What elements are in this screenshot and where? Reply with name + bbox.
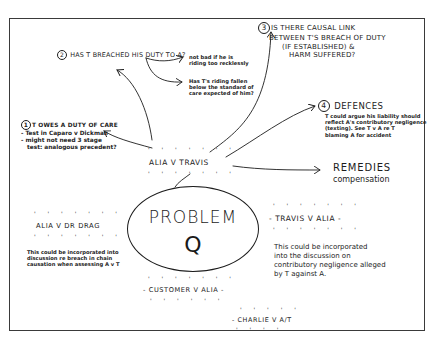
- alia-drdrag-sparkle-bottom: ' ' ' ' ' ' ': [34, 233, 122, 240]
- alia-drdrag-sparkle-top: ' ' ' ' ' ' ': [34, 210, 122, 217]
- customer-alia-label: - CUSTOMER v ALIA -: [143, 286, 224, 294]
- causation-note: 3IS THERE CAUSAL LINK BETWEEN T'S BREACH…: [258, 22, 386, 60]
- breach-sub1-note: not bad if he is riding too recklessly: [189, 54, 249, 66]
- alia-travis-sparkle-bottom: ' ' ' ' ' ' ': [148, 170, 236, 177]
- charlie-at-sparkle-bottom: ' ' ' ': [236, 326, 283, 333]
- customer-alia-sparkle-top: ' ' ' ' ' ' ': [148, 275, 236, 282]
- travis-alia-note: This could be incorporated into the disc…: [274, 243, 386, 279]
- number-2-icon: 2: [57, 50, 67, 60]
- alia-drdrag-label: ALIA v DR DRAG: [36, 222, 100, 230]
- problem-ellipse: [127, 186, 259, 272]
- number-1-icon: 1: [21, 120, 31, 130]
- breach-sub2-note: Has T's riding fallen below the standard…: [189, 78, 254, 97]
- remedies-heading: REMEDIES: [333, 162, 391, 174]
- number-4-icon: 4: [318, 100, 330, 112]
- travis-alia-sparkle-bottom: ' ' ' ' ' ' ': [273, 226, 361, 233]
- number-3-icon: 3: [258, 22, 270, 34]
- defences-note: T could argue his liability should refle…: [325, 113, 427, 138]
- alia-drdrag-note: This could be incorporated into discussi…: [27, 249, 120, 268]
- charlie-at-label: - CHARLIE v A/T: [232, 316, 292, 324]
- problem-subtitle: Q: [127, 232, 259, 257]
- problem-title: PROBLEM: [127, 207, 259, 227]
- customer-alia-sparkle-bottom: ' ' ' ' ' ': [150, 297, 224, 304]
- alia-travis-label: ALIA v TRAVIS: [149, 158, 209, 167]
- alia-travis-sparkle-top: ' ' ' ' ' ' ': [148, 146, 236, 153]
- travis-alia-sparkle-top: ' ' ' ' ' ' ': [273, 202, 361, 209]
- charlie-at-sparkle-top: ' ' ' ' ': [240, 306, 301, 313]
- breach-heading: 2 HAS T BREACHED HIS DUTY TO A?: [57, 50, 186, 60]
- remedies-detail: compensation: [333, 175, 390, 184]
- travis-alia-label: - TRAVIS v ALIA -: [269, 214, 341, 223]
- defences-heading: 4 DEFENCES: [318, 100, 383, 112]
- duty-of-care-note: 1T OWES A DUTY OF CARE - Test in Caparo …: [21, 120, 118, 151]
